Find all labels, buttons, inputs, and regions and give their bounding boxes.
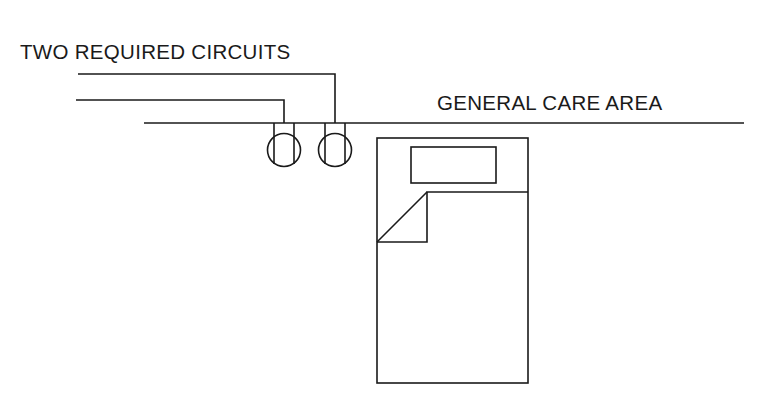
bed-icon [377, 138, 528, 383]
circuit-1-wire [78, 74, 335, 123]
bed-sheet-fold [377, 192, 528, 242]
circuit-2-wire [76, 100, 284, 123]
pillow-icon [411, 147, 496, 183]
diagram-canvas [0, 0, 768, 402]
receptacle-left-icon [268, 123, 301, 167]
receptacle-right-icon [319, 123, 352, 167]
